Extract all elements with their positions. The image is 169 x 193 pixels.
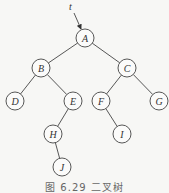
edge-B-E [47,74,66,94]
tree-node-D: D [6,92,24,110]
tree-node-H: H [44,125,62,143]
node-label: J [60,162,65,173]
edge-A-B [48,43,77,63]
node-label: G [155,96,162,107]
edge-C-F [107,75,122,94]
pointer-arrow-icon [74,13,81,29]
tree-node-E: E [64,92,82,110]
tree-node-J: J [53,158,71,176]
pointer-label: t [69,1,72,12]
node-label: A [81,33,89,44]
node-label: D [10,96,19,107]
tree-node-G: G [150,92,168,110]
node-label: H [48,129,57,140]
node-label: C [124,63,131,74]
edge-A-C [92,43,119,63]
edge-F-I [106,109,117,127]
node-label: B [38,63,44,74]
edge-E-H [58,109,69,127]
edge-C-G [133,74,152,94]
tree-node-I: I [113,125,131,143]
binary-tree-diagram: t ABCDEFGHIJ [0,0,169,193]
tree-node-F: F [92,92,110,110]
tree-node-B: B [32,59,50,77]
node-label: E [69,96,76,107]
node-label: I [119,129,124,140]
edge-H-J [55,143,59,159]
edge-B-D [21,75,36,94]
tree-nodes: ABCDEFGHIJ [6,29,168,176]
root-pointer: t [69,1,81,29]
tree-node-A: A [76,29,94,47]
figure-caption: 图 6.29 二叉树 [0,179,169,193]
tree-node-C: C [118,59,136,77]
node-label: F [97,96,105,107]
